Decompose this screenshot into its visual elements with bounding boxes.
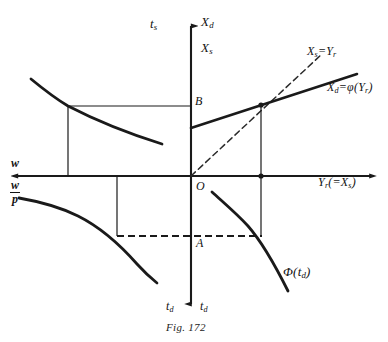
axis-label-td-left: td [166, 300, 174, 314]
point-label-b: B [195, 95, 203, 107]
axis-label-td-right: td [200, 300, 208, 314]
figure-caption: Fig. 172 [166, 321, 206, 333]
identity-line-dashed [191, 54, 322, 176]
axis-label-w: w [11, 157, 19, 169]
point-label-a: A [196, 237, 204, 249]
construction-lines [68, 105, 262, 236]
upper-left-curve [31, 79, 162, 144]
w-over-p-denominator: p [10, 193, 20, 205]
curve-label-phi-td: Φ(td) [283, 265, 311, 280]
equilibrium-point-x-axis [258, 173, 263, 178]
axis-label-yr: Yr(=Xs) [318, 176, 356, 190]
axis-label-xd-top: Xd [201, 15, 214, 30]
w-over-p-numerator: w [10, 179, 20, 191]
lower-left-curve [19, 198, 157, 283]
axis-label-xs-top: Xs [201, 41, 213, 56]
phi-td-curve [212, 192, 288, 291]
curve-label-identity: Xs=Yr [307, 45, 336, 59]
axis-label-ts: ts [150, 17, 157, 32]
equilibrium-point-upper [258, 102, 263, 107]
origin-label: O [196, 180, 205, 192]
curve-label-demand: Xd=φ(Yr) [327, 81, 373, 95]
axes-group [18, 26, 370, 304]
figure-container: ts Xd Xs w w p Yr(=Xs) O B A Xs=Yr Xd=φ(… [0, 0, 388, 342]
axis-label-w-over-p: w p [10, 179, 20, 205]
